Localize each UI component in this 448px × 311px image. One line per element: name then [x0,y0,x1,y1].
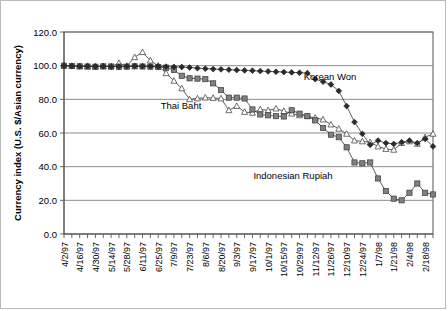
marker-triangle [226,107,232,113]
marker-square [266,113,271,118]
xtick-label-7: 7/9/97 [169,242,179,267]
xtick-label-9: 8/6/97 [201,242,211,267]
marker-square [250,107,255,112]
xtick-label-3: 5/14/97 [107,242,117,272]
xtick-label-0: 4/2/97 [60,242,70,267]
currency-index-line-chart: 0.020.040.060.080.0100.0120.0Currency in… [1,1,445,308]
marker-square [423,190,428,195]
marker-diamond [344,103,350,109]
chart-frame: 0.020.040.060.080.0100.0120.0Currency in… [0,0,446,309]
marker-diamond [257,68,263,74]
marker-triangle [375,143,381,149]
xtick-label-20: 1/7/98 [374,242,384,267]
marker-square [368,160,373,165]
xtick-label-16: 11/12/97 [311,242,321,276]
marker-square [344,145,349,150]
xtick-label-17: 11/26/97 [326,242,336,276]
marker-diamond [375,138,381,144]
marker-diamond [226,67,232,73]
marker-square [297,111,302,116]
ytick-label-120: 120.0 [33,27,57,38]
xtick-label-14: 10/15/97 [279,242,289,277]
xtick-label-10: 8/20/97 [217,242,227,272]
series-annotation-indonesian-rupiah: Indonesian Rupiah [253,170,332,181]
marker-square [179,73,184,78]
marker-square [242,96,247,101]
marker-diamond [391,141,397,147]
marker-diamond [210,66,216,72]
marker-square [226,95,231,100]
marker-square [313,118,318,123]
marker-square [320,125,325,130]
marker-diamond [202,66,208,72]
marker-square [289,108,294,113]
marker-triangle [273,105,279,111]
marker-diamond [273,69,279,75]
marker-square [360,161,365,166]
ytick-label-20: 20.0 [39,195,58,206]
marker-diamond [179,64,185,70]
marker-diamond [289,70,295,76]
marker-square [281,114,286,119]
marker-diamond [242,67,248,73]
xtick-label-19: 12/24/97 [358,242,368,277]
marker-triangle [140,49,146,55]
marker-diamond [265,68,271,74]
marker-triangle [328,121,334,127]
marker-square [258,112,263,117]
chart-svg: 0.020.040.060.080.0100.0120.0Currency in… [1,1,447,310]
marker-diamond [250,68,256,74]
marker-square [415,181,420,186]
marker-square [399,198,404,203]
series-annotation-thai-baht: Thai Baht [161,100,202,111]
ytick-label-0: 0.0 [44,229,57,240]
xtick-label-6: 6/25/97 [154,242,164,272]
marker-square [391,196,396,201]
marker-triangle [202,94,208,100]
marker-square [203,77,208,82]
xtick-label-23: 2/18/98 [421,242,431,272]
marker-square [234,95,239,100]
y-axis-title: Currency index (U.S. $/Asian currency) [12,45,23,221]
marker-square [187,76,192,81]
xtick-label-2: 4/30/97 [91,242,101,272]
marker-diamond [352,119,358,125]
xtick-label-22: 2/4/98 [405,242,415,267]
ytick-label-40: 40.0 [39,161,58,172]
ytick-label-60: 60.0 [39,128,58,139]
marker-triangle [336,126,342,132]
marker-square [375,176,380,181]
marker-square [352,160,357,165]
marker-square [273,114,278,119]
marker-diamond [234,67,240,73]
xtick-label-5: 6/11/97 [138,242,148,271]
marker-diamond [383,140,389,146]
marker-triangle [132,54,138,60]
ytick-label-80: 80.0 [39,94,58,105]
xtick-label-8: 7/23/97 [185,242,195,272]
marker-triangle [234,103,240,109]
ytick-label-100: 100.0 [33,60,57,71]
marker-triangle [257,106,263,112]
marker-diamond [195,65,201,71]
marker-square [305,114,310,119]
xtick-label-13: 10/1/97 [264,242,274,272]
marker-diamond [281,69,287,75]
marker-square [328,132,333,137]
marker-square [336,135,341,140]
xtick-label-18: 12/10/97 [342,242,352,277]
marker-square [430,192,435,197]
xtick-label-1: 4/16/97 [75,242,85,272]
marker-triangle [242,109,248,115]
xtick-label-4: 5/28/97 [122,242,132,272]
marker-diamond [359,131,365,137]
marker-square [407,190,412,195]
marker-square [218,87,223,92]
series-annotation-korean-won: Korean Won [304,71,357,82]
marker-square [383,188,388,193]
marker-diamond [218,66,224,72]
series-korean-won [61,63,436,150]
xtick-label-11: 9/3/97 [232,242,242,267]
xtick-label-21: 1/21/98 [389,242,399,272]
marker-square [195,76,200,81]
